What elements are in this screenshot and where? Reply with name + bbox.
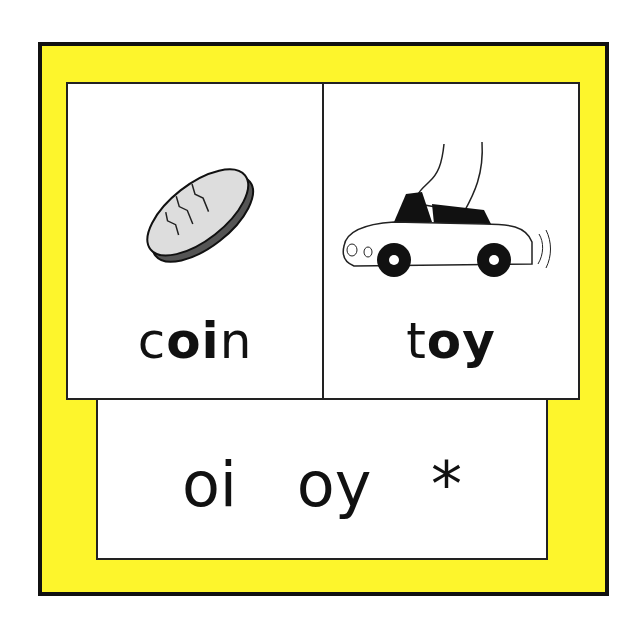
word-part: c — [138, 312, 167, 370]
word-part: n — [220, 312, 253, 370]
word-coin: coin — [68, 312, 322, 370]
word-part-highlight: oi — [166, 312, 220, 370]
sounds-card: oi oy * — [96, 398, 548, 560]
coin-icon — [134, 154, 264, 274]
coin-card: coin — [66, 82, 324, 400]
sound-list: oi oy * — [98, 448, 546, 521]
toy-car-icon — [334, 134, 554, 294]
word-toy: toy — [324, 312, 578, 370]
sound-oy: oy — [297, 448, 372, 521]
toy-card: toy — [322, 82, 580, 400]
sound-oi: oi — [182, 448, 237, 521]
sound-asterisk: * — [431, 448, 462, 521]
word-part: t — [406, 312, 427, 370]
word-part-highlight: oy — [427, 312, 496, 370]
